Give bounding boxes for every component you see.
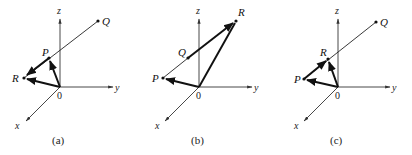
caption-b: (b)	[191, 134, 204, 147]
point-r	[326, 57, 329, 60]
origin-label: 0	[335, 90, 340, 101]
line-pq	[163, 58, 188, 78]
x-axis	[165, 87, 199, 121]
label-q: Q	[102, 15, 110, 27]
label-r: R	[319, 46, 327, 58]
vector-pr	[27, 58, 49, 75]
label-q: Q	[380, 16, 388, 28]
point-r	[234, 19, 237, 22]
z-axis-label: z	[195, 5, 200, 16]
point-r	[22, 76, 25, 79]
label-q: Q	[178, 46, 186, 58]
label-p: P	[151, 72, 159, 84]
z-axis-label: z	[334, 5, 339, 16]
x-axis	[26, 87, 60, 121]
label-p: P	[41, 46, 49, 58]
vector-diagram: z y x 0 Q P R (a) z y x 0	[0, 0, 412, 155]
caption-a: (a)	[52, 134, 65, 147]
x-axis-label: x	[293, 120, 299, 131]
label-p: P	[293, 73, 301, 85]
x-axis	[304, 87, 338, 121]
panel-b: z y x 0 R Q P (b)	[151, 5, 259, 147]
label-r: R	[11, 72, 19, 84]
panel-c: z y x 0 Q R P (c)	[293, 5, 397, 147]
y-axis-label: y	[114, 82, 120, 93]
point-q	[96, 19, 99, 22]
vector-pr	[304, 61, 326, 79]
vector-or	[199, 23, 235, 87]
point-q	[186, 56, 189, 59]
origin-label: 0	[57, 90, 62, 101]
vector-or	[27, 79, 60, 87]
point-p	[161, 76, 164, 79]
y-axis-label: y	[391, 82, 397, 93]
caption-c: (c)	[330, 134, 343, 147]
vector-op	[166, 79, 199, 87]
point-p	[302, 77, 305, 80]
vector-or	[329, 62, 338, 87]
z-axis-label: z	[56, 5, 61, 16]
x-axis-label: x	[154, 120, 160, 131]
vector-op	[50, 61, 60, 87]
point-q	[374, 20, 377, 23]
y-axis-label: y	[253, 82, 259, 93]
x-axis-label: x	[14, 120, 20, 131]
origin-label: 0	[196, 90, 201, 101]
panel-a: z y x 0 Q P R (a)	[11, 5, 120, 147]
vector-op	[307, 80, 338, 87]
label-r: R	[237, 6, 245, 18]
